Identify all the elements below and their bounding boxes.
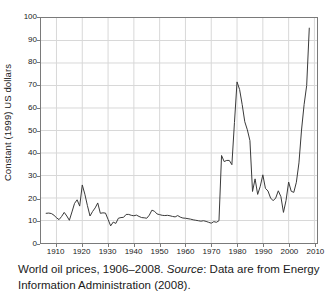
y-tick-mark	[37, 244, 40, 245]
y-tick-label: 90	[16, 36, 37, 44]
y-tick-label: 10	[16, 217, 37, 225]
x-tick-mark	[263, 244, 264, 247]
figure-caption: World oil prices, 1906–2008. Source: Dat…	[18, 262, 322, 293]
x-tick-mark	[134, 244, 135, 247]
y-tick-label: 100	[16, 13, 37, 21]
y-tick-label: 40	[16, 149, 37, 157]
y-tick-mark	[37, 62, 40, 63]
chart-container: Constant (1999) US dollars 0102030405060…	[0, 0, 332, 258]
x-tick-label: 1980	[229, 248, 247, 256]
x-tick-label: 1910	[47, 248, 65, 256]
y-axis-tick-labels: 0102030405060708090100	[16, 17, 37, 244]
y-tick-mark	[37, 17, 40, 18]
x-tick-label: 2000	[281, 248, 299, 256]
caption-text-before: World oil prices, 1906–2008.	[18, 263, 167, 275]
y-tick-label: 80	[16, 58, 37, 66]
x-tick-mark	[289, 244, 290, 247]
y-tick-label: 0	[16, 240, 37, 248]
x-tick-label: 1950	[151, 248, 169, 256]
x-tick-mark	[315, 244, 316, 247]
figure-world-oil-prices: Constant (1999) US dollars 0102030405060…	[0, 0, 332, 304]
x-tick-mark	[82, 244, 83, 247]
y-tick-mark	[37, 131, 40, 132]
x-tick-mark	[185, 244, 186, 247]
y-tick-label: 30	[16, 172, 37, 180]
x-axis-tick-labels: 1910192019301940195019601970198019902000…	[40, 244, 318, 258]
plot-area	[40, 17, 318, 244]
x-tick-mark	[211, 244, 212, 247]
y-axis-label: Constant (1999) US dollars	[0, 0, 16, 244]
y-tick-label: 60	[16, 104, 37, 112]
x-tick-label: 1990	[255, 248, 273, 256]
y-tick-mark	[37, 176, 40, 177]
x-tick-mark	[160, 244, 161, 247]
x-tick-label: 1970	[203, 248, 221, 256]
x-tick-label: 1940	[125, 248, 143, 256]
y-tick-label: 50	[16, 127, 37, 135]
caption-source-word: Source	[167, 263, 203, 275]
x-tick-label: 1960	[177, 248, 195, 256]
y-tick-mark	[37, 153, 40, 154]
x-tick-label: 1930	[99, 248, 117, 256]
x-tick-label: 1920	[73, 248, 91, 256]
x-tick-mark	[56, 244, 57, 247]
y-tick-label: 20	[16, 195, 37, 203]
y-tick-label: 70	[16, 81, 37, 89]
y-tick-mark	[37, 199, 40, 200]
y-tick-mark	[37, 108, 40, 109]
oil-price-line-series	[41, 18, 317, 243]
x-tick-label: 2010	[306, 248, 324, 256]
y-tick-mark	[37, 40, 40, 41]
x-tick-mark	[108, 244, 109, 247]
y-tick-mark	[37, 221, 40, 222]
x-tick-mark	[237, 244, 238, 247]
y-tick-mark	[37, 85, 40, 86]
y-axis-label-text: Constant (1999) US dollars	[3, 63, 14, 180]
